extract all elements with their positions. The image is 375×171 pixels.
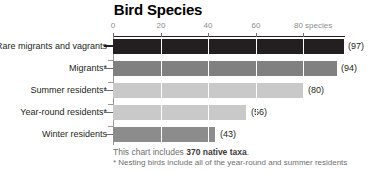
tick-mark-20 xyxy=(161,33,162,37)
bar-value: (43) xyxy=(220,129,236,140)
table-row: Rare migrants and vagrants (97) xyxy=(0,38,375,60)
tick-mark-40 xyxy=(208,33,209,37)
footnote-nesting: * Nesting birds include all of the year-… xyxy=(113,158,375,168)
footnote-total-post: . xyxy=(247,147,249,157)
footnote-total-count: 370 native taxa xyxy=(186,147,246,157)
x-tick-60: 60 xyxy=(252,21,261,31)
tick-mark-60 xyxy=(256,33,257,37)
leader-line xyxy=(104,134,113,135)
table-row: Migrants* (94) xyxy=(0,60,375,82)
bar-winter-residents xyxy=(113,127,215,142)
bar-rare-migrants-and-vagrants xyxy=(113,39,344,54)
gridline-60 xyxy=(256,38,257,144)
x-tick-0: 0 xyxy=(111,21,115,31)
tick-mark-80 xyxy=(303,33,304,37)
bar-rows: Rare migrants and vagrants (97) Migrants… xyxy=(0,38,375,148)
bar-label: Winter residents xyxy=(42,129,107,140)
gridline-80 xyxy=(303,38,304,144)
x-axis-tick-labels: 0 20 40 60 80 species xyxy=(0,21,375,33)
bar-value: (94) xyxy=(341,63,357,74)
gridline-20 xyxy=(161,38,162,144)
bar-label: Migrants* xyxy=(69,63,107,74)
leader-line xyxy=(104,45,113,47)
chart-title: Bird Species xyxy=(0,1,316,18)
x-tick-20: 20 xyxy=(157,21,166,31)
leader-line xyxy=(104,68,113,69)
bar-value: (80) xyxy=(308,85,324,96)
bird-species-chart: Bird Species 0 20 40 60 80 species Rare … xyxy=(0,0,375,171)
footnote-total-pre: This chart includes xyxy=(113,147,186,157)
table-row: Summer residents* (80) xyxy=(0,82,375,104)
bar-label: Rare migrants and vagrants xyxy=(0,41,107,52)
bar-value: (56) xyxy=(251,107,267,118)
table-row: Winter residents (43) xyxy=(0,126,375,148)
tick-mark-0 xyxy=(113,33,114,37)
gridline-40 xyxy=(208,38,209,144)
x-axis-line xyxy=(113,36,345,37)
leader-line xyxy=(104,112,113,113)
leader-line xyxy=(104,90,113,91)
bar-label: Year-round residents* xyxy=(20,107,107,118)
chart-footnotes: This chart includes 370 native taxa. * N… xyxy=(113,147,375,168)
bar-label: Summer residents* xyxy=(30,85,107,96)
footnote-total: This chart includes 370 native taxa. xyxy=(113,147,375,158)
bar-year-round-residents xyxy=(113,105,246,120)
table-row: Year-round residents* (56) xyxy=(0,104,375,126)
x-tick-40: 40 xyxy=(204,21,213,31)
bar-value: (97) xyxy=(348,41,364,52)
x-tick-80: 80 species xyxy=(294,21,332,31)
